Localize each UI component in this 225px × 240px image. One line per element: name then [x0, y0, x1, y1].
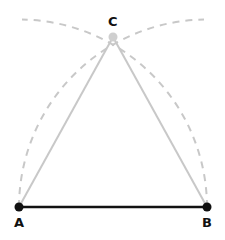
point-a	[15, 203, 24, 212]
construction-canvas	[0, 0, 225, 240]
segment-ac	[19, 37, 113, 207]
point-b	[203, 203, 212, 212]
segment-bc	[113, 37, 207, 207]
label-c: C	[108, 15, 118, 28]
arc-centered-a	[22, 20, 207, 208]
point-c	[109, 33, 118, 42]
arc-centered-b	[19, 20, 204, 208]
label-a: A	[14, 216, 24, 229]
label-b: B	[202, 216, 212, 229]
